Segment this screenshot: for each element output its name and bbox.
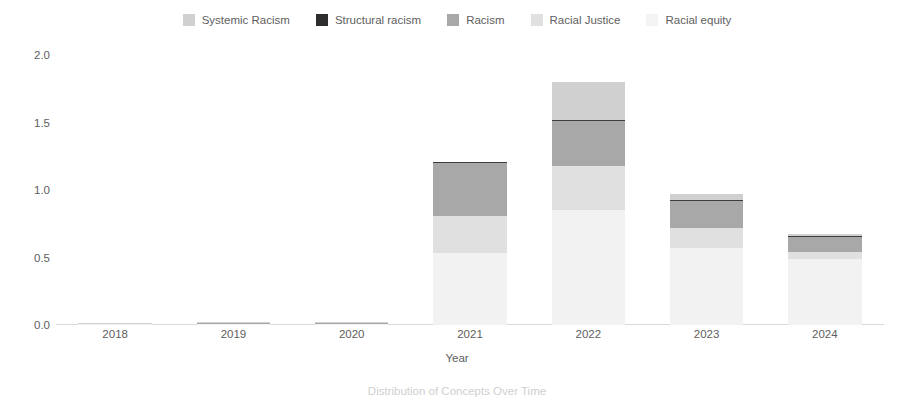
legend-label: Racial Justice	[550, 14, 621, 26]
bar-segment[interactable]	[788, 237, 861, 252]
legend-item[interactable]: Racism	[447, 14, 504, 26]
bar-segment[interactable]	[552, 166, 625, 211]
y-tick-label: 0.0	[16, 319, 50, 331]
bar-segment[interactable]	[315, 322, 388, 323]
x-tick-label: 2020	[339, 328, 365, 340]
bar-segment[interactable]	[433, 162, 506, 163]
y-tick-label: 2.0	[16, 49, 50, 61]
x-axis-tick-labels: 2018201920202021202220232024	[56, 328, 884, 346]
legend-item[interactable]: Structural racism	[316, 14, 421, 26]
legend-item[interactable]: Systemic Racism	[183, 14, 290, 26]
y-tick-label: 1.0	[16, 184, 50, 196]
y-tick-label: 1.5	[16, 117, 50, 129]
x-tick-label: 2021	[457, 328, 483, 340]
bar-group[interactable]	[788, 40, 861, 325]
bar-segment[interactable]	[78, 323, 151, 324]
bar-group[interactable]	[197, 40, 270, 325]
bar-segment[interactable]	[433, 253, 506, 325]
y-tick-label: 0.5	[16, 252, 50, 264]
bar-segment[interactable]	[552, 82, 625, 120]
figure-caption: Distribution of Concepts Over Time	[0, 385, 914, 398]
legend-label: Structural racism	[335, 14, 421, 26]
chart-legend: Systemic RacismStructural racismRacismRa…	[0, 14, 914, 26]
x-tick-label: 2023	[694, 328, 720, 340]
legend-item[interactable]: Racial equity	[646, 14, 731, 26]
x-tick-label: 2024	[812, 328, 838, 340]
legend-label: Racial equity	[665, 14, 731, 26]
x-tick-label: 2019	[221, 328, 247, 340]
bar-group[interactable]	[433, 40, 506, 325]
x-axis-title: Year	[0, 352, 914, 364]
legend-item[interactable]: Racial Justice	[531, 14, 621, 26]
bar-segment[interactable]	[552, 210, 625, 325]
bar-segment[interactable]	[197, 322, 270, 323]
bar-segment[interactable]	[433, 216, 506, 254]
plot-area	[56, 40, 884, 325]
bar-segment[interactable]	[670, 200, 743, 201]
bar-segment[interactable]	[552, 120, 625, 121]
bar-segment[interactable]	[788, 259, 861, 325]
bar-group[interactable]	[315, 40, 388, 325]
y-axis-tick-labels: 0.00.51.01.52.0	[10, 40, 50, 325]
x-tick-label: 2022	[575, 328, 601, 340]
legend-swatch-icon	[183, 14, 195, 26]
legend-label: Systemic Racism	[202, 14, 290, 26]
bar-group[interactable]	[552, 40, 625, 325]
bar-segment[interactable]	[788, 234, 861, 237]
legend-swatch-icon	[646, 14, 658, 26]
bar-segment[interactable]	[552, 121, 625, 166]
legend-label: Racism	[466, 14, 504, 26]
bar-segment[interactable]	[670, 228, 743, 248]
legend-swatch-icon	[531, 14, 543, 26]
bar-group[interactable]	[670, 40, 743, 325]
x-tick-label: 2018	[102, 328, 128, 340]
bar-segment[interactable]	[670, 194, 743, 199]
bar-segment[interactable]	[788, 252, 861, 259]
bar-segment[interactable]	[433, 163, 506, 216]
bar-segment[interactable]	[670, 201, 743, 228]
bar-group[interactable]	[78, 40, 151, 325]
chart-figure: Systemic RacismStructural racismRacismRa…	[0, 0, 914, 398]
legend-swatch-icon	[316, 14, 328, 26]
bar-segment[interactable]	[670, 248, 743, 325]
legend-swatch-icon	[447, 14, 459, 26]
